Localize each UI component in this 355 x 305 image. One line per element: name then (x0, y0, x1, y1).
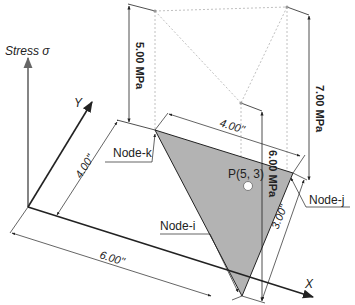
dim-stress-j (287, 7, 309, 180)
y-axis-label: Y (74, 96, 83, 110)
x-axis-label: X (304, 277, 314, 291)
dim-k-to-j-label: 4.00" (218, 116, 247, 135)
point-p-label: P(5, 3) (228, 167, 264, 181)
stress-axis-label: Stress σ (5, 44, 50, 58)
stress-j-value: 7.00 MPa (314, 85, 326, 133)
stress-i-value: 6.00 MPa (267, 150, 279, 198)
node-i-label: Node-i (160, 219, 195, 233)
y-axis (28, 102, 92, 207)
stress-k-value: 5.00 MPa (134, 42, 146, 90)
node-j-label: Node-j (309, 193, 344, 207)
point-p-marker (244, 182, 253, 191)
dim-y-offset-label: 4.00" (73, 151, 97, 180)
node-k-label: Node-k (113, 146, 153, 160)
fem-diagram: Stress σ Y X Node-k Node-i Node-j P(5, 3… (0, 0, 355, 305)
